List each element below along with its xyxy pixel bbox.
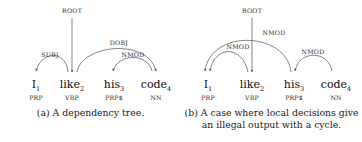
arc-nmod-a: [113, 58, 152, 72]
token-index: 4: [347, 85, 351, 93]
token-index: 1: [208, 85, 212, 93]
token-pos: NN: [330, 94, 342, 101]
token-word: like: [60, 78, 80, 91]
token-pos: PRP$: [105, 94, 123, 101]
token-like-a: like2 VBP: [60, 78, 84, 101]
arc-nmod-like-b: [210, 52, 248, 72]
token-index: 2: [260, 85, 264, 93]
token-pos: NN: [150, 94, 162, 101]
arc-label-nmod-like-b: NMOD: [227, 43, 250, 50]
token-word: code: [321, 78, 347, 91]
token-index: 3: [300, 85, 304, 93]
token-index: 2: [80, 85, 84, 93]
caption-b-line1: (b) A case where local decisions give: [181, 107, 362, 119]
token-I-a: I1 PRP: [29, 78, 43, 101]
svg-text:code4: code4: [141, 78, 171, 93]
svg-text:I1: I1: [204, 78, 213, 93]
arc-nmod-code-b: [295, 55, 332, 71]
arc-label-nmod-code-b: NMOD: [302, 48, 325, 55]
diagram-b: ROOT NMOD NMOD NMOD I1 PRP like2 VBP: [181, 0, 362, 105]
caption-b-line2: an illegal output with a cycle.: [181, 119, 362, 131]
token-pos: VBP: [244, 94, 259, 101]
panel-dependency-tree: ROOT SUBJ DOBJ NMOD I1 PRP like2 VBP: [0, 0, 181, 142]
arc-label-nmod-a: NMOD: [122, 51, 145, 58]
token-pos: VBP: [64, 94, 79, 101]
svg-text:like2: like2: [240, 78, 264, 93]
arc-label-dobj-a: DOBJ: [110, 39, 128, 47]
arc-label-subj-a: SUBJ: [41, 51, 59, 59]
token-word: his: [104, 78, 121, 91]
figure-dependency-parses: ROOT SUBJ DOBJ NMOD I1 PRP like2 VBP: [0, 0, 362, 142]
svg-text:his3: his3: [104, 78, 124, 93]
token-code-a: code4 NN: [141, 78, 171, 101]
diagram-a: ROOT SUBJ DOBJ NMOD I1 PRP like2 VBP: [0, 0, 181, 105]
token-word: like: [240, 78, 260, 91]
root-label-b: ROOT: [242, 7, 263, 14]
svg-text:I1: I1: [32, 78, 41, 93]
token-pos: PRP: [29, 94, 43, 101]
svg-text:code4: code4: [321, 78, 351, 93]
svg-text:his3: his3: [284, 78, 304, 93]
token-code-b: code4 NN: [321, 78, 351, 101]
token-word: code: [141, 78, 167, 91]
caption-b: (b) A case where local decisions give an…: [181, 107, 362, 130]
token-like-b: like2 VBP: [240, 78, 264, 101]
token-index: 3: [120, 85, 124, 93]
panel-cyclic-output: ROOT NMOD NMOD NMOD I1 PRP like2 VBP: [181, 0, 362, 142]
token-index: 4: [167, 85, 171, 93]
token-pos: PRP$: [285, 94, 303, 101]
caption-a: (a) A dependency tree.: [0, 107, 181, 119]
token-pos: PRP: [201, 94, 215, 101]
svg-text:like2: like2: [60, 78, 84, 93]
token-word: his: [284, 78, 301, 91]
root-label-a: ROOT: [62, 7, 83, 14]
token-I-b: I1 PRP: [201, 78, 215, 101]
token-his-a: his3 PRP$: [104, 78, 124, 101]
token-his-b: his3 PRP$: [284, 78, 304, 101]
token-index: 1: [36, 85, 40, 93]
arc-label-nmod-long-b: NMOD: [263, 29, 286, 36]
